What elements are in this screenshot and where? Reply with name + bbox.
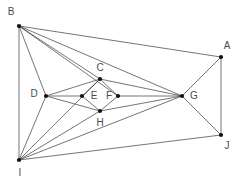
- vertex-point-h: [98, 109, 102, 113]
- vertex-label-i: I: [19, 168, 22, 178]
- vertex-point-b: [17, 24, 21, 28]
- edge-j-i: [19, 135, 221, 160]
- geometry-diagram: ABCDEFGHIJ: [0, 0, 240, 186]
- vertex-label-e: E: [91, 91, 98, 101]
- vertex-point-a: [219, 55, 223, 59]
- edge-a-g: [182, 57, 221, 96]
- vertex-point-c: [98, 77, 102, 81]
- vertex-label-c: C: [96, 63, 103, 73]
- edge-i-d: [19, 96, 46, 160]
- vertex-label-g: G: [190, 91, 198, 101]
- vertex-label-f: F: [106, 91, 112, 101]
- edge-c-g: [100, 79, 182, 96]
- edge-h-g: [100, 96, 182, 111]
- vertex-label-b: B: [8, 7, 15, 17]
- vertex-label-h: H: [96, 118, 103, 128]
- edge-i-g: [19, 96, 182, 160]
- edge-j-g: [182, 96, 221, 135]
- edge-i-h: [19, 111, 100, 160]
- edge-b-g: [19, 26, 182, 96]
- vertex-point-f: [116, 94, 120, 98]
- vertex-point-j: [219, 133, 223, 137]
- edge-b-a: [19, 26, 221, 57]
- edge-b-f: [19, 26, 118, 96]
- vertex-point-g: [180, 94, 184, 98]
- vertex-label-d: D: [30, 89, 37, 99]
- vertex-label-j: J: [225, 141, 230, 151]
- vertex-point-e: [80, 94, 84, 98]
- edge-b-c: [19, 26, 100, 79]
- vertex-label-a: A: [224, 41, 231, 51]
- vertex-point-d: [44, 94, 48, 98]
- vertex-point-i: [17, 158, 21, 162]
- edge-b-d: [19, 26, 46, 96]
